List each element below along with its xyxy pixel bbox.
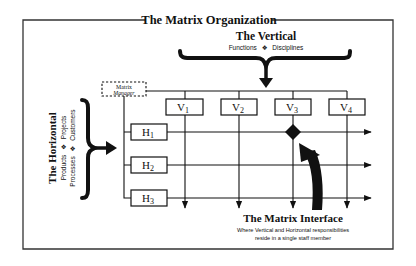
diagram-title: The Matrix Organization [141, 13, 276, 27]
horizontal-item-products: Products [60, 154, 67, 180]
horizontal-line2: Processes ❖ Customers [69, 109, 76, 187]
vertical-item-disciplines: Disciplines [272, 44, 304, 52]
v2-letter: V [232, 101, 240, 113]
v4-letter: V [340, 101, 348, 113]
diamond-bullet-icon: ❖ [60, 144, 67, 150]
vertical-box-v3: V3 [275, 99, 311, 115]
v2-sub: 2 [240, 106, 244, 115]
horizontal-bus-line [124, 96, 131, 198]
horizontal-box-h2: H2 [131, 157, 167, 173]
interface-desc-line2: reside in a single staff member [255, 235, 331, 241]
vertical-box-v2: V2 [221, 99, 257, 115]
matrix-diagram: The Matrix Organization The Vertical Fun… [0, 0, 416, 266]
vertical-brace-icon [180, 51, 350, 88]
horizontal-item-processes: Processes [69, 156, 76, 187]
diamond-bullet-icon: ❖ [262, 44, 268, 51]
horizontal-line1: Products ❖ Projects [60, 115, 68, 180]
manager-label-line2: Manager [112, 90, 135, 96]
horizontal-lines [167, 132, 371, 198]
horizontal-item-customers: Customers [69, 109, 76, 141]
horizontal-box-h1: H1 [131, 124, 167, 140]
vertical-box-v4: V4 [329, 99, 365, 115]
horizontal-box-h3: H3 [131, 190, 167, 206]
h2-sub: 2 [150, 164, 154, 173]
v1-sub: 1 [185, 106, 189, 115]
diamond-bullet-icon: ❖ [69, 145, 76, 151]
matrix-manager-box: Matrix Manager [102, 82, 146, 96]
vertical-heading: The Vertical [236, 30, 296, 42]
vertical-item-functions: Functions [229, 44, 258, 51]
horizontal-label-group: The Horizontal Products ❖ Projects Proce… [46, 109, 76, 187]
v1-letter: V [177, 101, 185, 113]
interface-desc-line1: Where Vertical and Horizontal responsibi… [237, 227, 349, 233]
vertical-lines [185, 91, 347, 208]
h2-letter: H [142, 159, 150, 171]
v3-sub: 3 [294, 106, 298, 115]
v3-letter: V [286, 101, 294, 113]
h3-letter: H [142, 192, 150, 204]
horizontal-brace-icon [82, 100, 117, 198]
h3-sub: 3 [150, 197, 154, 206]
vertical-subtitle: Functions ❖ Disciplines [229, 44, 304, 52]
interface-pointer-arrow-icon [299, 143, 323, 210]
matrix-interface-diamond-icon [285, 124, 301, 140]
h1-letter: H [142, 126, 150, 138]
interface-heading: The Matrix Interface [243, 212, 343, 224]
horizontal-item-projects: Projects [60, 115, 68, 139]
horizontal-heading: The Horizontal [46, 112, 58, 184]
vertical-box-v1: V1 [166, 99, 203, 115]
v4-sub: 4 [348, 106, 352, 115]
h1-sub: 1 [150, 131, 154, 140]
